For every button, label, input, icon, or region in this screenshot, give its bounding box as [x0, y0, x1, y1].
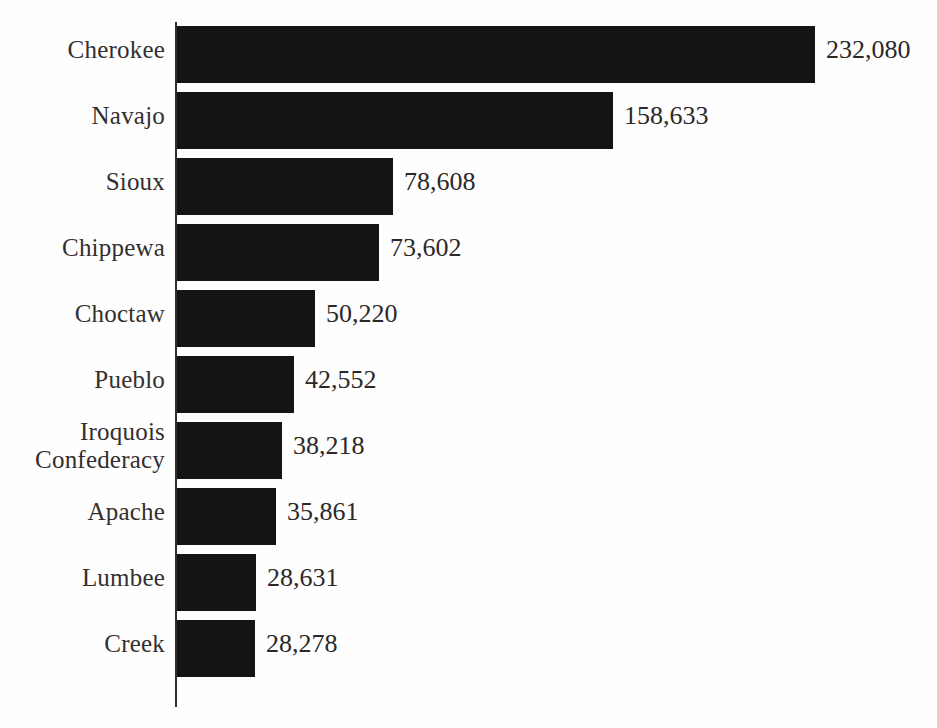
category-label: Lumbee [0, 564, 165, 592]
bar-value-label: 232,080 [826, 35, 911, 65]
bar [177, 26, 815, 83]
bar-value-label: 73,602 [390, 233, 462, 263]
bar-row: Creek28,278 [0, 616, 937, 682]
bar-value-label: 28,631 [267, 563, 339, 593]
bar [177, 620, 255, 677]
bar-chart-plot-area: Cherokee232,080Navajo158,633Sioux78,608C… [0, 0, 937, 728]
bar-row: Lumbee28,631 [0, 550, 937, 616]
bar [177, 224, 379, 281]
bar [177, 158, 393, 215]
category-label: Cherokee [0, 36, 165, 64]
bar [177, 554, 256, 611]
category-label: Chippewa [0, 234, 165, 262]
category-label: Choctaw [0, 300, 165, 328]
bar-value-label: 78,608 [404, 167, 476, 197]
bar [177, 356, 294, 413]
category-label: Navajo [0, 102, 165, 130]
category-label: Iroquois Confederacy [0, 418, 165, 474]
bar-row: Choctaw50,220 [0, 286, 937, 352]
bar-value-label: 50,220 [326, 299, 398, 329]
bar-value-label: 28,278 [266, 629, 338, 659]
bar-row: Navajo158,633 [0, 88, 937, 154]
bar-value-label: 35,861 [287, 497, 359, 527]
chart-page: Cherokee232,080Navajo158,633Sioux78,608C… [0, 0, 937, 728]
bar-row: Chippewa73,602 [0, 220, 937, 286]
category-label: Pueblo [0, 366, 165, 394]
bar [177, 422, 282, 479]
category-label: Sioux [0, 168, 165, 196]
bar [177, 92, 613, 149]
bar [177, 290, 315, 347]
bar-row: Sioux78,608 [0, 154, 937, 220]
bar-row: Apache35,861 [0, 484, 937, 550]
bar [177, 488, 276, 545]
category-label: Apache [0, 498, 165, 526]
bar-row: Pueblo42,552 [0, 352, 937, 418]
bar-value-label: 38,218 [293, 431, 365, 461]
bar-value-label: 42,552 [305, 365, 377, 395]
category-label: Creek [0, 630, 165, 658]
bar-row: Iroquois Confederacy38,218 [0, 418, 937, 484]
bar-value-label: 158,633 [624, 101, 709, 131]
bar-row: Cherokee232,080 [0, 22, 937, 88]
